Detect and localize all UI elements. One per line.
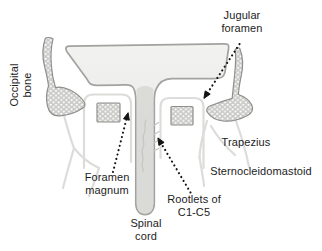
- spinal-cord-label: Spinal cord: [101, 217, 191, 243]
- occipital-bone-label: Occipital bone: [8, 51, 36, 119]
- jugular-foramen-arrowhead: [204, 91, 210, 99]
- muscle-line-left-1: [63, 112, 74, 148]
- sternocleidomastoid-label: Sternocleidomastoid: [201, 165, 321, 178]
- foramen-magnum-label: Foramen magnum: [62, 171, 152, 197]
- anatomy-diagram: Jugular foramen Occipital bone Trapezius…: [0, 0, 322, 251]
- jugular-foramen-label: Jugular foramen: [197, 9, 287, 35]
- foramen-magnum-arrowhead: [124, 113, 130, 121]
- rootlets-arrow: [161, 143, 191, 193]
- rootlets-label: Rootlets of C1-C5: [150, 193, 238, 219]
- muscle-line-left-3: [74, 148, 99, 168]
- bone-section-left: [97, 103, 120, 122]
- bone-section-right: [171, 107, 193, 126]
- foramen-magnum-arrow: [113, 119, 127, 172]
- trapezius-label: Trapezius: [201, 136, 291, 149]
